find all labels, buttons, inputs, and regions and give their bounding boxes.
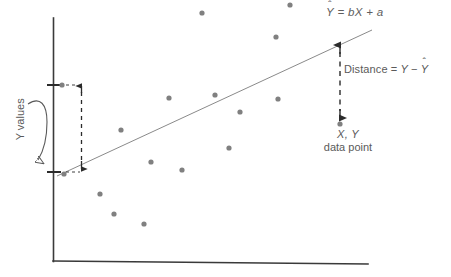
scatter-point (179, 167, 184, 172)
distance-equals: = (388, 63, 401, 75)
scatter-point (118, 127, 123, 132)
scatter-point (287, 2, 292, 7)
scatter-point (237, 109, 242, 114)
regression-equation-label: ˆY = bX + a (326, 6, 383, 19)
scatter-point (226, 145, 231, 150)
scatter-point (97, 191, 102, 196)
data-point-coords: X, Y (337, 128, 359, 140)
regression-line (57, 30, 372, 176)
distance-word: Distance (344, 63, 388, 75)
distance-y: Y (400, 63, 407, 75)
y-hat-caret: ˆ (328, 0, 332, 12)
y-values-curved-arrow (28, 101, 47, 160)
distance-y-hat-caret: ˆ (423, 57, 427, 69)
scatter-point (273, 34, 278, 39)
x-axis-line (53, 261, 368, 264)
scatter-point (148, 159, 153, 164)
scatter-point (337, 121, 342, 126)
scatter-point (166, 95, 171, 100)
scatter-point (59, 82, 64, 87)
distance-label: Distance = Y − ˆY (344, 63, 428, 76)
scatter-point (61, 171, 66, 176)
scatter-point (199, 10, 204, 15)
regression-scatter-figure: ˆY = bX + a Distance = Y − ˆY X, Y data … (0, 0, 451, 277)
distance-minus: − (408, 63, 421, 75)
scatter-point (275, 96, 280, 101)
scatter-point (141, 221, 146, 226)
regression-equation-rhs: = bX + a (334, 6, 383, 18)
scatter-point-group (59, 2, 342, 226)
data-point-caption: data point (300, 141, 396, 154)
y-values-span-annotation (66, 85, 82, 172)
scatter-point (111, 211, 116, 216)
scatter-point (212, 92, 217, 97)
y-axis-title: Y values (14, 88, 27, 150)
data-point-label: X, Y data point (300, 128, 396, 153)
